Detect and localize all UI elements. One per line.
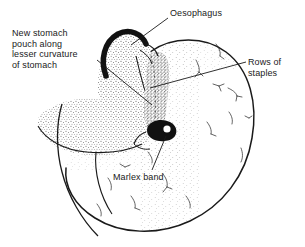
label-rows-of-staples: Rows of staples: [248, 57, 281, 78]
label-oesophagus: Oesophagus: [170, 8, 222, 19]
label-new-stomach-pouch: New stomach pouch along lesser curvature…: [12, 28, 78, 70]
label-marlex-band: Marlex band: [113, 172, 164, 183]
